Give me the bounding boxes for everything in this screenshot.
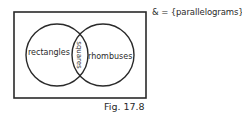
- universal-set-definition: & = {parallelograms}: [152, 7, 242, 17]
- rectangles-label: rectangles: [28, 48, 70, 57]
- figure-caption: Fig. 17.8: [104, 101, 145, 112]
- universal-set-label: = {parallelograms}: [161, 7, 242, 17]
- rhombuses-label: rhombuses: [88, 52, 132, 61]
- universal-set-symbol: &: [152, 7, 159, 17]
- squares-label: squares: [75, 41, 83, 69]
